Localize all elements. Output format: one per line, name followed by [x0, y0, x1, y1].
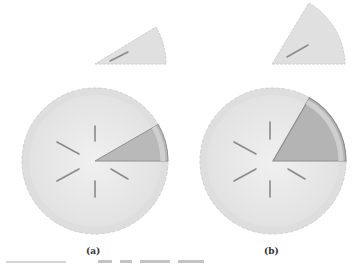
cut-off-caption [0, 259, 230, 263]
panel-label-b: (b) [264, 246, 279, 256]
slice-a-removed [95, 27, 166, 64]
pie-b [200, 88, 346, 234]
pie-diagrams [0, 0, 353, 264]
pie-a [22, 88, 168, 234]
figure: (a) (b) [0, 0, 353, 264]
panel-label-a: (a) [86, 246, 100, 256]
slice-b-removed [272, 3, 345, 64]
